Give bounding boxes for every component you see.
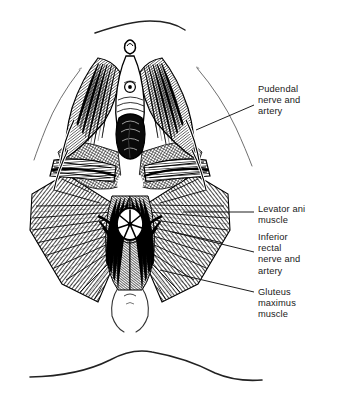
- label-levator-ani-muscle: Levator ani muscle: [258, 204, 305, 226]
- vulva-vaginal-opening: [116, 114, 145, 159]
- label-inferior-rectal-nerve-and-artery: Inferior rectal nerve and artery: [258, 232, 300, 277]
- anatomical-figure: Pudendal nerve and artery Levator ani mu…: [0, 0, 340, 407]
- clitoris: [125, 40, 136, 54]
- label-gluteus-maximus-muscle: Gluteus maximus muscle: [258, 287, 296, 321]
- anus: [114, 205, 146, 243]
- label-pudendal-nerve-and-artery: Pudendal nerve and artery: [258, 84, 300, 118]
